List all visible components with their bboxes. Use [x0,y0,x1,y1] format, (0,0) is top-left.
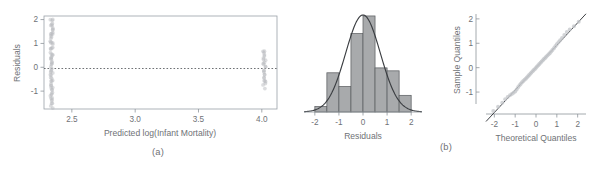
svg-text:1: 1 [33,39,38,48]
svg-text:-1: -1 [466,88,474,97]
y-axis-title-a: Residuals [12,44,22,82]
svg-text:1: 1 [385,118,390,127]
svg-text:-1: -1 [335,118,343,127]
svg-text:2: 2 [33,15,38,24]
svg-text:4.0: 4.0 [256,115,268,124]
caption-a: (a) [152,146,164,157]
svg-text:1: 1 [555,120,560,129]
svg-text:3.5: 3.5 [193,115,205,124]
panel-c-qq-plot: -1012 -2-1012 Theoretical Quantiles Samp… [438,0,598,171]
y-axis-title-c: Sample Quantiles [452,26,462,94]
svg-text:-1: -1 [31,87,39,96]
qq-point-series [491,20,580,113]
svg-text:3.0: 3.0 [129,115,141,124]
panel-a-svg: -1012 2.53.03.54.0 Predicted log(Infant … [0,0,300,171]
x-axis-ticks-c: -2-1012 [491,114,581,129]
residual-point-cloud [48,18,267,110]
y-axis-ticks-c: -1012 [466,15,480,97]
diagnostic-figure: -1012 2.53.03.54.0 Predicted log(Infant … [0,0,598,171]
panel-b-svg: -2-1012 Residuals [288,0,438,171]
svg-text:2: 2 [575,120,580,129]
caption-b: (b) [440,141,452,152]
x-axis-ticks-a: 2.53.03.54.0 [66,109,268,124]
y-axis-ticks-a: -1012 [31,15,44,96]
x-axis-title-c: Theoretical Quantiles [495,133,576,143]
x-axis-title-a: Predicted log(Infant Mortality) [104,128,216,138]
x-axis-ticks-b: -2-1012 [311,112,414,127]
x-axis-title-b: Residuals [344,131,382,141]
svg-text:0: 0 [468,64,473,73]
svg-text:0: 0 [33,63,38,72]
panel-b-histogram: -2-1012 Residuals [288,0,438,171]
plot-frame-a [44,16,277,109]
svg-text:0: 0 [361,118,366,127]
svg-text:0: 0 [534,120,539,129]
panel-a-residual-plot: -1012 2.53.03.54.0 Predicted log(Infant … [0,0,300,171]
svg-text:-1: -1 [512,120,520,129]
svg-text:1: 1 [468,39,473,48]
svg-text:2: 2 [409,118,414,127]
panel-c-svg: -1012 -2-1012 Theoretical Quantiles Samp… [438,0,598,171]
svg-text:2.5: 2.5 [66,115,78,124]
svg-text:2: 2 [468,15,473,24]
svg-text:-2: -2 [491,120,499,129]
svg-text:-2: -2 [311,118,319,127]
